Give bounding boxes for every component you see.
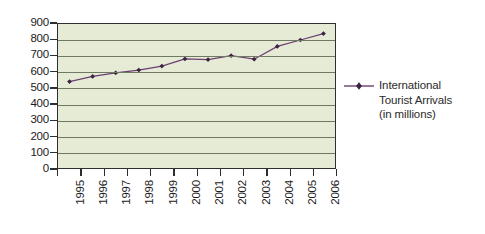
x-tick-mark: [127, 169, 128, 176]
legend-label-line-3: (in millions): [379, 107, 452, 122]
x-tick-mark: [173, 169, 174, 176]
x-tick-mark: [220, 169, 221, 176]
x-tick-mark: [336, 169, 337, 176]
x-tick-label: 2006: [330, 180, 342, 220]
y-tick-mark: [50, 103, 57, 104]
series-line: [70, 34, 324, 82]
y-tick-label: 100: [0, 147, 49, 159]
y-tick-label: 500: [0, 82, 49, 94]
x-tick-mark: [266, 169, 267, 176]
legend-label-line-2: Tourist Arrivals: [379, 93, 452, 108]
data-point-marker: [206, 57, 211, 62]
x-tick-label: 2004: [284, 180, 296, 220]
y-axis: 0100200300400500600700800900: [0, 0, 49, 234]
y-tick-mark: [50, 55, 57, 56]
x-tick-mark: [150, 169, 151, 176]
x-tick-mark: [57, 169, 58, 176]
gridline: [58, 72, 335, 73]
x-tick-label: 1996: [98, 180, 110, 220]
y-tick-label: 400: [0, 98, 49, 110]
y-tick-label: 600: [0, 66, 49, 78]
x-tick-mark: [104, 169, 105, 176]
line-chart: 0100200300400500600700800900 19951996199…: [0, 0, 485, 234]
y-tick-mark: [50, 71, 57, 72]
legend-marker-icon: [344, 79, 374, 93]
data-point-marker: [67, 79, 72, 84]
gridline: [58, 88, 335, 89]
y-tick-label: 700: [0, 49, 49, 61]
legend-label-line-1: International: [379, 78, 452, 93]
data-point-marker: [252, 57, 257, 62]
gridline: [58, 56, 335, 57]
data-point-marker: [321, 31, 326, 36]
x-tick-label: 2001: [214, 180, 226, 220]
y-tick-mark: [50, 168, 57, 169]
gridline: [58, 40, 335, 41]
data-point-marker: [159, 64, 164, 69]
gridline: [58, 121, 335, 122]
x-tick-label: 2003: [261, 180, 273, 220]
x-tick-mark: [80, 169, 81, 176]
x-tick-label: 2002: [237, 180, 249, 220]
y-tick-label: 800: [0, 33, 49, 45]
y-tick-mark: [50, 87, 57, 88]
x-tick-mark: [313, 169, 314, 176]
gridline: [58, 137, 335, 138]
x-tick-label: 1999: [168, 180, 180, 220]
legend-label: International Tourist Arrivals (in milli…: [379, 78, 452, 122]
x-tick-mark: [290, 169, 291, 176]
y-tick-label: 0: [0, 163, 49, 175]
plot-area: [57, 23, 336, 169]
series-layer: [58, 24, 335, 168]
gridline: [58, 153, 335, 154]
y-tick-label: 200: [0, 131, 49, 143]
x-tick-mark: [243, 169, 244, 176]
x-tick-mark: [197, 169, 198, 176]
y-tick-mark: [50, 120, 57, 121]
y-tick-mark: [50, 152, 57, 153]
x-tick-label: 1998: [144, 180, 156, 220]
x-tick-label: 1995: [75, 180, 87, 220]
y-tick-label: 300: [0, 114, 49, 126]
data-point-marker: [90, 74, 95, 79]
x-tick-label: 2000: [191, 180, 203, 220]
x-tick-label: 1997: [121, 180, 133, 220]
gridline: [58, 105, 335, 106]
y-tick-mark: [50, 22, 57, 23]
x-tick-label: 2005: [307, 180, 319, 220]
y-tick-label: 900: [0, 17, 49, 29]
y-tick-mark: [50, 136, 57, 137]
data-point-marker: [183, 57, 188, 62]
y-tick-mark: [50, 39, 57, 40]
chart-legend: International Tourist Arrivals (in milli…: [344, 78, 452, 122]
